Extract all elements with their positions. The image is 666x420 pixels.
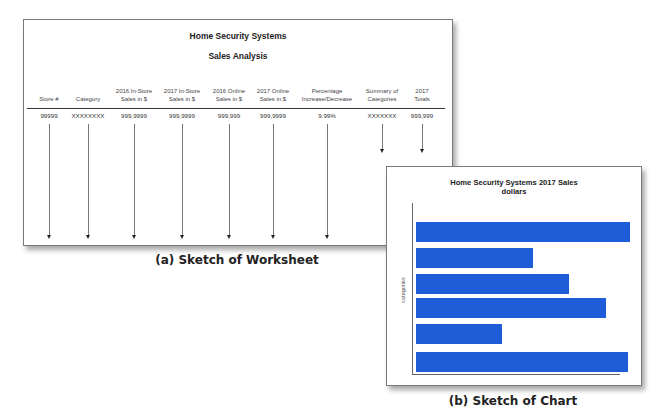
y-axis: [412, 203, 413, 375]
column-header: 2017 OnlineSales in $: [245, 87, 301, 103]
chart-sketch: Home Security Systems 2017 Sales dollars…: [386, 166, 642, 386]
down-arrow-icon: [182, 124, 183, 236]
worksheet-subtitle: Sales Analysis: [24, 51, 452, 61]
cell-value: 999,999: [394, 112, 450, 119]
chart-bar: [416, 274, 569, 294]
down-arrow-icon: [229, 124, 230, 236]
chart-title: Home Security Systems 2017 Sales: [387, 178, 641, 187]
column-header: PercentageIncrease/Decrease: [299, 87, 355, 103]
cell-value: 9.99%: [299, 112, 355, 119]
chart-bar: [416, 352, 628, 372]
chart-bar: [416, 222, 630, 242]
chart-subtitle: dollars: [387, 187, 641, 196]
x-axis: [412, 374, 620, 375]
down-arrow-icon: [382, 124, 383, 150]
chart-bar: [416, 248, 533, 268]
chart-bar: [416, 324, 502, 344]
worksheet-title: Home Security Systems: [24, 31, 452, 41]
chart-bar: [416, 298, 606, 318]
chart-caption: (b) Sketch of Chart: [386, 394, 640, 408]
down-arrow-icon: [327, 124, 328, 236]
column-header: 2017Totals: [394, 87, 450, 103]
down-arrow-icon: [49, 124, 50, 236]
header-rule: [27, 108, 445, 109]
down-arrow-icon: [273, 124, 274, 236]
y-axis-label: categories: [400, 270, 406, 310]
down-arrow-icon: [134, 124, 135, 236]
down-arrow-icon: [422, 124, 423, 150]
cell-value: 999,9999: [245, 112, 301, 119]
down-arrow-icon: [88, 124, 89, 236]
